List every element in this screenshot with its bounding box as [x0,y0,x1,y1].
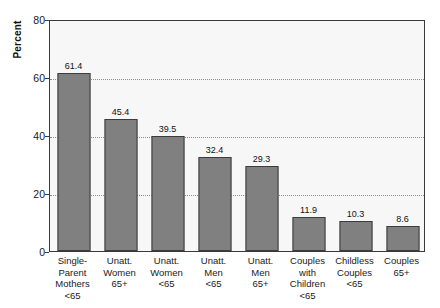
x-category-line: Women [96,267,143,279]
x-category-line: Couples [331,267,378,279]
bar-value-label: 61.4 [65,61,83,71]
x-category-line: <65 [190,278,237,290]
y-tick-label: 20 [3,188,45,200]
bar-slot: 29.3 [238,21,285,251]
x-category-line: Children [284,278,331,290]
x-category-label: Unatt.Men<65 [190,255,237,290]
x-category-label: ChildlessCouples<65 [331,255,378,290]
x-category-line: Unatt. [237,255,284,267]
bar-value-label: 10.3 [347,209,365,219]
x-category-line: 65+ [96,278,143,290]
x-category-label: CoupleswithChildren<65 [284,255,331,301]
y-tick-label: 80 [3,14,45,26]
bar[interactable] [104,119,137,251]
bar-value-label: 11.9 [300,205,317,215]
x-category-line: <65 [284,290,331,302]
bar[interactable] [57,73,90,251]
y-tick-label: 60 [3,72,45,84]
x-axis-labels: Single-ParentMothers<65Unatt.Women65+Una… [49,255,425,308]
bar-slot: 32.4 [191,21,238,251]
x-category-label: Unatt.Women<65 [143,255,190,290]
bar-slot: 61.4 [50,21,97,251]
x-category-line: Childless [331,255,378,267]
bar-value-label: 45.4 [112,107,130,117]
bar-value-label: 32.4 [206,145,224,155]
x-category-line: Unatt. [143,255,190,267]
bar-slot: 39.5 [144,21,191,251]
bar[interactable] [292,217,325,252]
x-category-line: with [284,267,331,279]
x-category-line: Unatt. [190,255,237,267]
bar-value-label: 39.5 [159,124,177,134]
x-category-line: Unatt. [96,255,143,267]
y-axis-ticks: 020406080 [0,20,45,252]
bar[interactable] [151,136,184,251]
x-category-line: Men [237,267,284,279]
x-category-label: Couples65+ [378,255,425,278]
bar-value-label: 8.6 [396,214,409,224]
x-category-label: Unatt.Men65+ [237,255,284,290]
bar[interactable] [339,221,372,251]
x-category-line: Couples [378,255,425,267]
y-tick-label: 40 [3,130,45,142]
x-category-line: Men [190,267,237,279]
x-category-line: Mothers [49,278,96,290]
x-category-line: <65 [331,278,378,290]
y-tick-mark [45,252,49,253]
bar[interactable] [198,157,231,251]
bar-slot: 11.9 [285,21,332,251]
x-category-line: Single- [49,255,96,267]
x-category-label: Unatt.Women65+ [96,255,143,290]
x-category-line: 65+ [378,267,425,279]
bar-chart: Percent 020406080 61.445.439.532.429.311… [0,0,440,308]
bar-slot: 8.6 [379,21,425,251]
y-tick-label: 0 [3,246,45,258]
x-category-line: <65 [49,290,96,302]
x-category-line: Couples [284,255,331,267]
x-category-label: Single-ParentMothers<65 [49,255,96,301]
bars-layer: 61.445.439.532.429.311.910.38.6 [50,21,424,251]
plot-area: 61.445.439.532.429.311.910.38.6 [49,20,425,252]
bar-value-label: 29.3 [253,154,271,164]
x-category-line: Women [143,267,190,279]
x-category-line: 65+ [237,278,284,290]
bar-slot: 45.4 [97,21,144,251]
bar[interactable] [386,226,419,251]
x-category-line: Parent [49,267,96,279]
bar-slot: 10.3 [332,21,379,251]
bar[interactable] [245,166,278,251]
x-category-line: <65 [143,278,190,290]
